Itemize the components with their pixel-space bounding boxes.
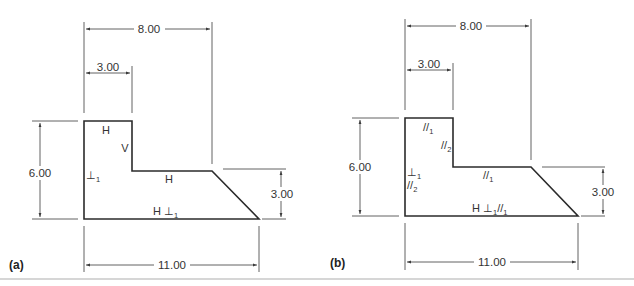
- dimension-label: 6.00: [349, 161, 371, 173]
- dimension-8-a: 8.00: [86, 23, 210, 35]
- constraint-horizontal-perpendicular-bottom: H ⊥1: [153, 205, 178, 220]
- dimension-3-right-b: 3.00: [590, 169, 618, 214]
- constraint-horizontal-mid: H: [165, 173, 173, 185]
- panel-a: 8.00 3.00 6.00 3.00 11.00 H V H ⊥: [9, 22, 296, 272]
- panel-b: 8.00 3.00 6.00 3.00 11.00 //1: [330, 19, 618, 270]
- dimension-label: 8.00: [138, 23, 160, 35]
- dimension-6-b: 6.00: [346, 120, 374, 214]
- constraint-horizontal-top: H: [102, 124, 110, 136]
- dimension-8-b: 8.00: [407, 20, 529, 32]
- dimension-3-right-a: 3.00: [268, 171, 296, 217]
- constraint-parallel-notch: //2: [441, 139, 451, 154]
- panel-label-b: (b): [330, 256, 345, 270]
- dimension-label: 11.00: [478, 256, 506, 268]
- panel-label-a: (a): [9, 258, 24, 272]
- dimension-label: 3.00: [418, 58, 440, 70]
- constraint-parallel-top: //1: [423, 121, 433, 136]
- dimension-3-top-b: 3.00: [407, 58, 451, 70]
- dimension-6-a: 6.00: [26, 123, 54, 217]
- dimension-label: 3.00: [271, 188, 293, 200]
- constraint-parallel-left: //2: [407, 179, 417, 194]
- constraint-parallel-mid: //1: [483, 169, 493, 184]
- dimension-label: 3.00: [97, 61, 119, 73]
- dimension-3-top-a: 3.00: [86, 61, 130, 73]
- dimension-label: 11.00: [158, 259, 186, 271]
- constraint-perpendicular-left: ⊥1: [86, 169, 100, 184]
- constraint-bottom-edge: H ⊥1//1: [472, 202, 507, 217]
- constraint-vertical-notch: V: [121, 142, 129, 154]
- dimension-label: 8.00: [460, 20, 482, 32]
- constraint-diagram: 8.00 3.00 6.00 3.00 11.00 H V H ⊥: [0, 0, 634, 286]
- dimension-label: 6.00: [29, 167, 51, 179]
- dimension-11-a: 11.00: [86, 259, 257, 271]
- dimension-label: 3.00: [592, 186, 614, 198]
- dimension-11-b: 11.00: [407, 256, 576, 268]
